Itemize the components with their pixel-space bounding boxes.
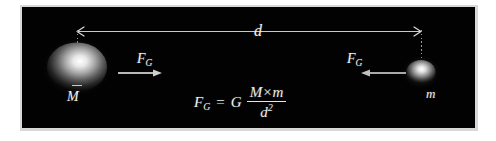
force-arrow-left [118, 70, 162, 77]
force-subscript-right: G [356, 58, 363, 68]
distance-dimension-line [77, 27, 421, 36]
force-label-left: FG [137, 52, 152, 66]
force-subscript-left: G [146, 58, 153, 68]
figure-root: d M m FG FG FG = G M×m d2 [0, 0, 496, 141]
formula-numerator-right: m [273, 84, 284, 100]
force-symbol-right: F [347, 51, 356, 66]
formula-lhs: FG [194, 95, 210, 110]
formula-gravitational-constant: G [231, 95, 242, 110]
gravitation-formula: FG = G M×m d2 [194, 85, 286, 120]
formula-fraction: M×m d2 [247, 85, 287, 120]
diagram-panel: d M m FG FG FG = G M×m d2 [22, 7, 475, 128]
formula-denominator-base: d [260, 104, 268, 120]
formula-multiply-operator: × [262, 84, 272, 100]
formula-numerator-left: M [250, 84, 263, 100]
distance-label: d [254, 23, 262, 39]
large-mass-label: M [67, 90, 79, 104]
formula-numerator: M×m [247, 85, 287, 101]
formula-lhs-subscript: G [203, 101, 210, 112]
small-mass-sphere [401, 55, 441, 89]
small-mass-label: m [426, 87, 435, 100]
formula-equals: = [216, 95, 224, 110]
force-symbol-left: F [137, 51, 146, 66]
large-mass-sphere [41, 37, 113, 97]
formula-lhs-symbol: F [194, 94, 203, 110]
formula-denominator: d2 [257, 102, 276, 120]
force-arrow-right [361, 70, 406, 77]
force-label-right: FG [347, 52, 362, 66]
formula-denominator-exponent: 2 [268, 102, 273, 113]
